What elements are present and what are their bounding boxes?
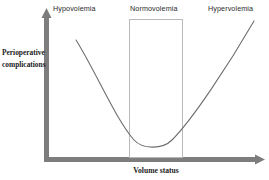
x-axis: [44, 155, 265, 165]
zone-label-hypovolemia: Hypovolemia: [53, 4, 96, 13]
chart-canvas: [0, 0, 269, 180]
y-axis-title-line-1: Perioperative: [2, 47, 54, 59]
complications-curve: [76, 21, 254, 147]
y-axis-title-line-2: complications: [2, 59, 54, 71]
y-axis-title: Perioperative complications: [2, 47, 54, 70]
figure-container: Hypovolemia Normovolemia Hypervolemia Pe…: [0, 0, 269, 180]
x-axis-title: Volume status: [96, 166, 216, 175]
zone-label-normovolemia: Normovolemia: [130, 4, 178, 13]
y-axis: [42, 8, 52, 162]
x-axis-arrowhead: [255, 155, 265, 165]
y-axis-arrowhead: [42, 8, 52, 18]
zone-label-hypervolemia: Hypervolemia: [208, 4, 253, 13]
